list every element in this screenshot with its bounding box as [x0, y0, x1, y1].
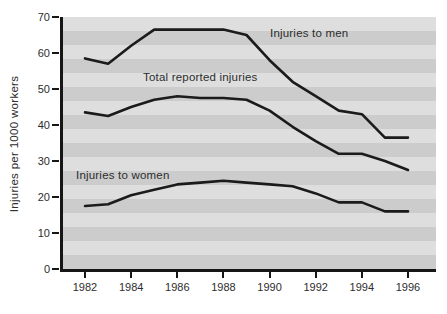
- x-tick-mark: [315, 272, 317, 278]
- x-tick-label: 1986: [155, 281, 199, 293]
- x-tick-mark: [361, 272, 363, 278]
- y-tick-label: 60: [20, 47, 50, 59]
- x-tick-mark: [407, 272, 409, 278]
- y-tick-mark: [52, 124, 59, 126]
- series-line-2: [85, 181, 408, 212]
- y-tick-label: 70: [20, 11, 50, 23]
- y-tick-mark: [52, 232, 59, 234]
- x-tick-mark: [130, 272, 132, 278]
- series-line-0: [85, 30, 408, 138]
- series-line-1: [85, 96, 408, 170]
- x-tick-label: 1988: [201, 281, 245, 293]
- y-tick-mark: [52, 16, 59, 18]
- y-tick-mark: [52, 196, 59, 198]
- y-tick-label: 20: [20, 191, 50, 203]
- chart-lines: [63, 17, 436, 269]
- x-tick-label: 1984: [109, 281, 153, 293]
- series-label-men: Injuries to men: [270, 27, 348, 39]
- x-tick-label: 1982: [63, 281, 107, 293]
- y-tick-mark: [52, 160, 59, 162]
- x-tick-mark: [269, 272, 271, 278]
- y-tick-mark: [52, 268, 59, 270]
- y-tick-label: 30: [20, 155, 50, 167]
- y-tick-mark: [52, 88, 59, 90]
- x-tick-label: 1992: [294, 281, 338, 293]
- x-tick-label: 1996: [386, 281, 430, 293]
- y-tick-mark: [52, 52, 59, 54]
- line-chart-figure: Injuries per 1000 workers Injuries to me…: [0, 0, 447, 314]
- series-label-women: Injuries to women: [76, 169, 170, 181]
- x-tick-mark: [222, 272, 224, 278]
- x-tick-label: 1990: [248, 281, 292, 293]
- y-tick-label: 10: [20, 227, 50, 239]
- x-tick-mark: [84, 272, 86, 278]
- y-tick-label: 0: [20, 263, 50, 275]
- y-tick-label: 50: [20, 83, 50, 95]
- x-tick-mark: [176, 272, 178, 278]
- x-tick-label: 1994: [340, 281, 384, 293]
- y-axis-title: Injuries per 1000 workers: [8, 76, 20, 213]
- plot-area: Injuries to men Total reported injuries …: [60, 17, 436, 272]
- series-label-total: Total reported injuries: [143, 71, 258, 83]
- y-tick-label: 40: [20, 119, 50, 131]
